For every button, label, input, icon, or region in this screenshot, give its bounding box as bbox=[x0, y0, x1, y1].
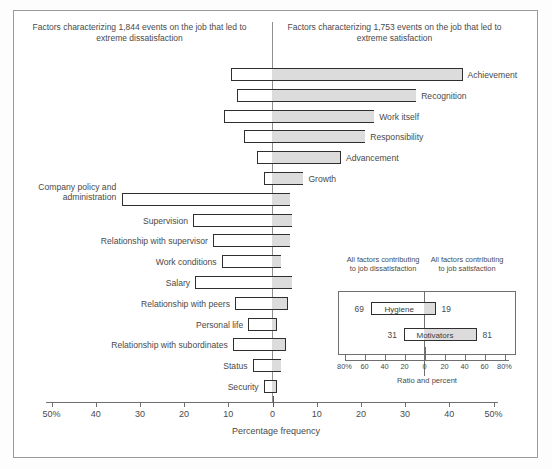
x-tick bbox=[228, 402, 229, 407]
bar-advancement bbox=[257, 151, 341, 164]
x-tick-label: 20 bbox=[179, 409, 189, 419]
x-tick bbox=[52, 402, 53, 407]
x-tick-label: 10 bbox=[312, 409, 322, 419]
x-tick bbox=[96, 402, 97, 407]
x-tick-label: 40 bbox=[444, 409, 454, 419]
inset-x-tick bbox=[405, 355, 406, 360]
inset-x-tick bbox=[465, 355, 466, 360]
bar-label: Work conditions bbox=[156, 257, 217, 267]
bar-fill-positive bbox=[272, 111, 374, 122]
bar-relationship-with-subordinates bbox=[233, 338, 286, 351]
bar-achievement bbox=[231, 68, 463, 81]
x-tick-label: 50% bbox=[484, 409, 502, 419]
x-tick bbox=[494, 402, 495, 407]
bar-label: Recognition bbox=[421, 91, 466, 101]
x-axis-title: Percentage frequency bbox=[0, 426, 552, 436]
bar-label: Advancement bbox=[346, 153, 399, 163]
x-tick-label: 10 bbox=[223, 409, 233, 419]
bar-label: Responsibility bbox=[370, 132, 423, 142]
bar-fill-positive bbox=[272, 235, 290, 246]
x-tick-label: 40 bbox=[91, 409, 101, 419]
bar-growth bbox=[264, 172, 304, 185]
inset-x-tick-label: 20 bbox=[400, 362, 408, 371]
inset-x-tick bbox=[385, 355, 386, 360]
bar-fill-positive bbox=[272, 173, 303, 184]
bar-label: Relationship with supervisor bbox=[101, 236, 208, 246]
bar-fill-positive bbox=[272, 319, 276, 330]
bar-status bbox=[253, 359, 282, 372]
x-tick bbox=[361, 402, 362, 407]
header-satisfaction: Factors characterizing 1,753 events on t… bbox=[277, 22, 512, 44]
inset-value-right: 81 bbox=[483, 330, 492, 340]
figure-canvas: Factors characterizing 1,844 events on t… bbox=[0, 0, 552, 469]
inset-x-tick-label: 60 bbox=[480, 362, 488, 371]
inset-x-tick-label: 40 bbox=[380, 362, 388, 371]
bar-work-itself bbox=[224, 110, 374, 123]
x-tick bbox=[273, 396, 274, 407]
bar-supervision bbox=[193, 214, 292, 227]
bar-label: Supervision bbox=[143, 216, 188, 226]
bar-fill-positive bbox=[272, 215, 292, 226]
inset-bar-fill-positive bbox=[424, 303, 435, 314]
x-tick bbox=[317, 402, 318, 407]
bar-work-conditions bbox=[222, 255, 282, 268]
bar-fill-positive bbox=[272, 152, 341, 163]
bar-fill-positive bbox=[272, 131, 365, 142]
inset-header-dissatisfaction: All factors contributing to job dissatis… bbox=[343, 256, 423, 273]
inset-x-tick bbox=[485, 355, 486, 360]
bar-label: Relationship with subordinates bbox=[111, 340, 228, 350]
inset-value-left: 31 bbox=[388, 330, 397, 340]
inset-x-axis-line bbox=[345, 360, 509, 361]
bar-recognition bbox=[237, 89, 416, 102]
inset-x-tick bbox=[365, 355, 366, 360]
x-tick bbox=[449, 402, 450, 407]
inset-x-tick bbox=[445, 355, 446, 360]
bar-label: Security bbox=[228, 382, 259, 392]
inset-x-tick-label: 60 bbox=[360, 362, 368, 371]
bar-label: Growth bbox=[308, 174, 336, 184]
bar-salary bbox=[195, 276, 292, 289]
inset-header-satisfaction: All factors contributing to job satisfac… bbox=[427, 256, 507, 273]
bar-label: Salary bbox=[166, 278, 190, 288]
inset-bar-label: Motivators bbox=[417, 331, 454, 340]
bar-relationship-with-peers bbox=[235, 297, 288, 310]
bar-label: Status bbox=[223, 361, 247, 371]
bar-fill-positive bbox=[272, 90, 416, 101]
bar-label: Work itself bbox=[379, 112, 419, 122]
bar-fill-positive bbox=[272, 69, 462, 80]
inset-x-tick bbox=[505, 355, 506, 360]
bar-label: Relationship with peers bbox=[141, 299, 230, 309]
inset-x-tick-label: 20 bbox=[440, 362, 448, 371]
bar-fill-positive bbox=[272, 381, 276, 392]
bar-responsibility bbox=[244, 130, 366, 143]
inset-x-tick bbox=[345, 355, 346, 360]
inset-value-right: 19 bbox=[442, 304, 451, 314]
inset-x-tick-label: 0 bbox=[422, 362, 426, 371]
bar-fill-positive bbox=[272, 256, 281, 267]
inset-x-tick bbox=[425, 347, 426, 360]
x-tick-label: 30 bbox=[400, 409, 410, 419]
bar-security bbox=[264, 380, 277, 393]
bar-fill-positive bbox=[272, 298, 287, 309]
inset-x-tick-label: 80% bbox=[337, 362, 352, 371]
x-tick bbox=[405, 402, 406, 407]
x-tick bbox=[140, 402, 141, 407]
inset-x-tick-label: 80% bbox=[497, 362, 512, 371]
bar-personal-life bbox=[248, 318, 277, 331]
x-tick-label: 0 bbox=[270, 409, 275, 419]
x-tick-label: 20 bbox=[356, 409, 366, 419]
bar-fill-positive bbox=[272, 277, 292, 288]
header-dissatisfaction: Factors characterizing 1,844 events on t… bbox=[22, 22, 257, 44]
bar-fill-positive bbox=[272, 194, 290, 205]
bar-label: Personal life bbox=[196, 320, 243, 330]
inset-bar-label: Hygiene bbox=[385, 305, 414, 314]
bar-relationship-with-supervisor bbox=[213, 234, 290, 247]
inset-chart-frame bbox=[338, 291, 516, 355]
bar-label: Achievement bbox=[468, 70, 518, 80]
bar-fill-positive bbox=[272, 360, 281, 371]
bar-company-policy-and-administration bbox=[122, 193, 290, 206]
x-tick-label: 30 bbox=[135, 409, 145, 419]
x-tick bbox=[184, 402, 185, 407]
bar-fill-positive bbox=[272, 339, 285, 350]
inset-x-tick-label: 40 bbox=[460, 362, 468, 371]
